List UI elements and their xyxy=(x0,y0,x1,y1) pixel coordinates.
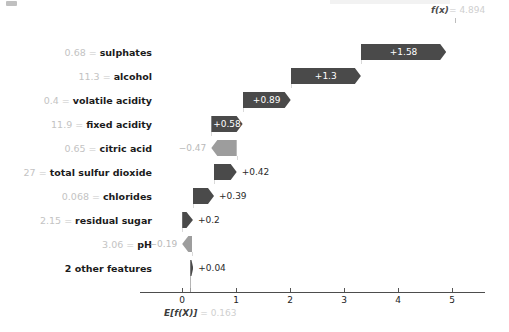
feature-name: 2 other features xyxy=(65,263,152,274)
base-value-number: 0.163 xyxy=(211,308,237,318)
top-right-artifact xyxy=(330,0,450,4)
shap-bar[interactable] xyxy=(211,140,236,156)
x-axis-tick-mark xyxy=(344,288,345,292)
feature-equals: = xyxy=(89,47,97,58)
x-axis-tick-label: 0 xyxy=(179,295,185,305)
feature-row-label: 0.068=chlorides xyxy=(0,184,152,208)
shap-bar-shape xyxy=(182,236,192,252)
x-axis-tick-label: 2 xyxy=(287,295,293,305)
base-value-label: E[f(X)] xyxy=(164,308,197,318)
x-axis-tick-label: 3 xyxy=(341,295,347,305)
shap-bar[interactable] xyxy=(193,188,214,204)
x-axis-tick-label: 1 xyxy=(233,295,239,305)
feature-name: sulphates xyxy=(100,47,152,58)
feature-value: 27 xyxy=(24,167,36,178)
shap-value-label: +0.89 xyxy=(243,88,291,112)
feature-value: 0.4 xyxy=(44,95,59,106)
shap-bar-shape xyxy=(190,260,193,276)
shap-bar[interactable] xyxy=(214,164,237,180)
shap-bar[interactable] xyxy=(190,260,193,276)
feature-row-label: 0.4=volatile acidity xyxy=(0,88,152,112)
x-axis-tick-label: 5 xyxy=(449,295,455,305)
waterfall-row[interactable]: 0.68=sulphates+1.58 xyxy=(0,40,509,64)
shap-value-label: +0.39 xyxy=(219,184,247,208)
waterfall-row[interactable]: 2.15=residual sugar+0.2 xyxy=(0,208,509,232)
feature-row-label: 11.9=fixed acidity xyxy=(0,112,152,136)
output-value-equals: = xyxy=(449,5,457,15)
shap-value-label: −0.47 xyxy=(0,136,206,160)
shap-value-label: +0.42 xyxy=(242,160,270,184)
waterfall-row[interactable]: 27=total sulfur dioxide+0.42 xyxy=(0,160,509,184)
waterfall-row[interactable]: 0.4=volatile acidity+0.89 xyxy=(0,88,509,112)
waterfall-row[interactable]: 0.65=citric acid−0.47 xyxy=(0,136,509,160)
shap-bar-shape xyxy=(214,164,237,180)
baseline-tick xyxy=(190,288,191,292)
shap-bar-shape xyxy=(182,212,193,228)
top-left-artifact xyxy=(6,1,17,6)
feature-row-label: 27=total sulfur dioxide xyxy=(0,160,152,184)
feature-row-label: 0.68=sulphates xyxy=(0,40,152,64)
feature-row-label: 11.3=alcohol xyxy=(0,64,152,88)
output-value-number: 4.894 xyxy=(459,5,485,15)
feature-equals: = xyxy=(39,167,47,178)
x-axis-tick-mark xyxy=(236,288,237,292)
shap-value-label: +1.58 xyxy=(361,40,446,64)
feature-name: alcohol xyxy=(114,71,152,82)
x-axis-tick-mark xyxy=(398,288,399,292)
x-axis-line xyxy=(140,292,485,293)
output-value-tick xyxy=(455,18,456,23)
feature-row-label: 2.15=residual sugar xyxy=(0,208,152,232)
feature-equals: = xyxy=(62,95,70,106)
feature-value: 11.9 xyxy=(51,119,72,130)
feature-value: 0.68 xyxy=(65,47,86,58)
x-axis-tick-mark xyxy=(452,288,453,292)
feature-value: 11.3 xyxy=(79,71,100,82)
shap-bar-shape xyxy=(193,188,214,204)
base-value-equals: = xyxy=(200,308,208,318)
feature-row-label: 2 other features xyxy=(0,256,152,280)
waterfall-row[interactable]: 11.9=fixed acidity+0.58 xyxy=(0,112,509,136)
shap-value-label: +0.58 xyxy=(211,112,242,136)
waterfall-row[interactable]: 2 other features+0.04 xyxy=(0,256,509,280)
waterfall-row[interactable]: 11.3=alcohol+1.3 xyxy=(0,64,509,88)
feature-value: 2.15 xyxy=(40,215,61,226)
feature-equals: = xyxy=(64,215,72,226)
feature-equals: = xyxy=(75,119,83,130)
feature-equals: = xyxy=(103,71,111,82)
shap-value-label: +1.3 xyxy=(291,64,361,88)
x-axis-tick-mark xyxy=(182,288,183,292)
shap-bar-shape xyxy=(211,140,236,156)
waterfall-row[interactable]: 3.06=pH−0.19 xyxy=(0,232,509,256)
x-axis-tick-label: 4 xyxy=(395,295,401,305)
feature-name: total sulfur dioxide xyxy=(50,167,152,178)
shap-waterfall-plot: f(x)= 4.894 0.68=sulphates+1.5811.3=alco… xyxy=(0,0,509,332)
feature-name: chlorides xyxy=(103,191,152,202)
shap-value-label: +0.2 xyxy=(198,208,220,232)
x-axis-tick-mark xyxy=(290,288,291,292)
shap-bar[interactable] xyxy=(182,236,192,252)
waterfall-row[interactable]: 0.068=chlorides+0.39 xyxy=(0,184,509,208)
shap-value-label: +0.04 xyxy=(198,256,226,280)
shap-bar[interactable] xyxy=(182,212,193,228)
baseline-vertical-line xyxy=(190,276,191,288)
feature-equals: = xyxy=(92,191,100,202)
base-value-annotation: E[f(X)] = 0.163 xyxy=(164,308,237,318)
feature-name: volatile acidity xyxy=(73,95,152,106)
feature-name: fixed acidity xyxy=(86,119,152,130)
feature-name: residual sugar xyxy=(75,215,152,226)
feature-value: 0.068 xyxy=(62,191,89,202)
output-value-label: f(x) xyxy=(431,5,449,15)
shap-value-label: −0.19 xyxy=(0,232,177,256)
output-value-annotation: f(x)= 4.894 xyxy=(431,5,485,16)
